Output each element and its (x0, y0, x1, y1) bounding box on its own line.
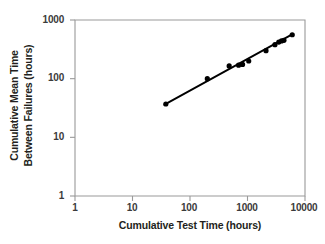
x-axis-ticks (75, 196, 305, 201)
data-point-marker (246, 58, 251, 63)
data-point-marker (163, 101, 168, 106)
plot-area (0, 0, 325, 244)
data-point-marker (290, 32, 295, 37)
data-point-marker (263, 48, 268, 53)
duane-reliability-growth-chart: Cumulative Mean Time Between Failures (h… (0, 0, 325, 244)
y-axis-ticks (70, 20, 75, 196)
data-point-marker (281, 38, 286, 43)
data-point-marker (205, 76, 210, 81)
data-point-marker (227, 63, 232, 68)
data-point-marker (240, 62, 245, 67)
